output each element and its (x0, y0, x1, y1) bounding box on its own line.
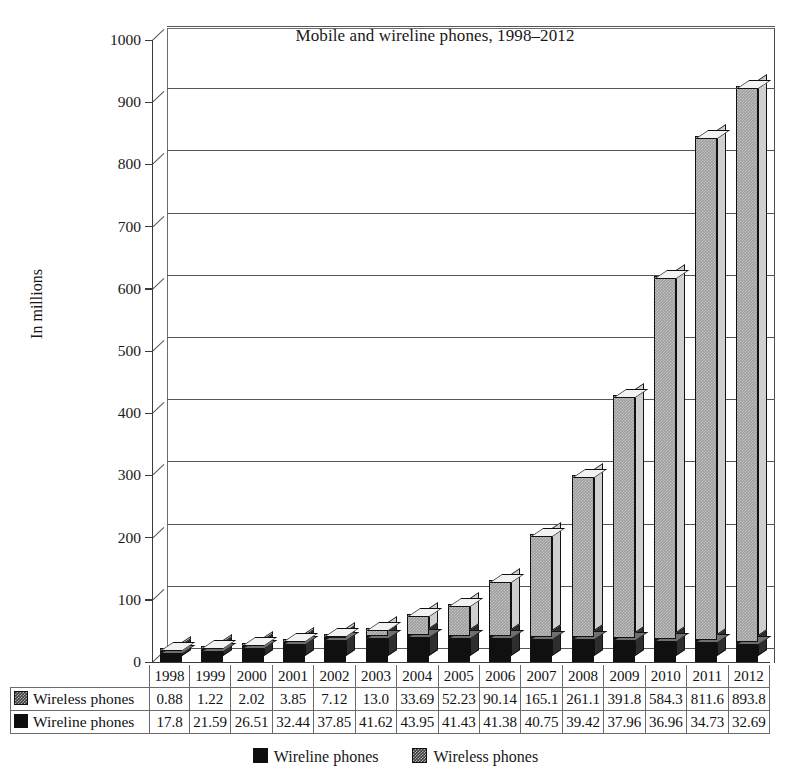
gray-hatched-square-icon (14, 691, 28, 705)
bar-column (201, 646, 232, 662)
table-cell-wireless-value: 2.02 (231, 688, 272, 711)
table-row-years: 1998199920002001200220032004200520062007… (11, 665, 770, 688)
bar-column (242, 643, 273, 662)
bar-segment-wireless (448, 604, 470, 636)
table-cell-wireline-value: 39.42 (562, 711, 603, 734)
table-cell-wireless-value: 3.85 (272, 688, 313, 711)
table-cell-wireline-value: 41.38 (479, 711, 520, 734)
bar-segment-wireline-front-face (407, 635, 429, 662)
bar-segment-wireless (160, 648, 182, 651)
chart-legend: Wireline phonesWireless phones (0, 748, 791, 766)
y-axis-tick-label: 800 (85, 156, 141, 172)
table-cell-year: 1999 (190, 665, 231, 688)
gridline-depth-connector (152, 216, 164, 228)
gridline-depth-connector (152, 91, 164, 103)
gridline-depth-connector (152, 340, 164, 352)
legend-item: Wireless phones (412, 748, 538, 766)
bar-segment-wireline-front-face (448, 636, 470, 662)
table-cell-wireless-value: 811.6 (687, 688, 728, 711)
y-axis-tick-label: 1000 (85, 32, 141, 48)
bar-segment-wireline (324, 638, 346, 662)
table-cell-wireline-value: 36.96 (645, 711, 686, 734)
table-cell-wireline-value: 41.43 (438, 711, 479, 734)
bar-segment-wireless (242, 643, 264, 646)
bar-segment-wireless (695, 136, 717, 641)
table-cell-wireline-value: 17.8 (149, 711, 189, 734)
bar-column (613, 395, 644, 662)
table-row-label-wireline: Wireline phones (11, 711, 150, 734)
table-cell-wireline-value: 32.69 (728, 711, 770, 734)
table-row-label-wireless: Wireless phones (11, 688, 150, 711)
bar-segment-wireline (448, 636, 470, 662)
table-cell-year: 2010 (645, 665, 686, 688)
table-row-wireline: Wireline phones 17.821.5926.5132.4437.85… (11, 711, 770, 734)
bar-segment-wireless-side-face (717, 124, 726, 635)
table-cell-wireless-value: 90.14 (479, 688, 520, 711)
legend-item-label: Wireless phones (433, 748, 538, 765)
bar-column (407, 614, 438, 662)
bar-segment-wireline (283, 642, 305, 662)
bar-segment-wireline-front-face (324, 638, 346, 662)
gridline (167, 150, 775, 151)
table-cell-year: 2001 (272, 665, 313, 688)
table-cell-wireless-value: 33.69 (397, 688, 438, 711)
bar-segment-wireline-front-face (695, 640, 717, 662)
bar-segment-wireless-side-face (552, 522, 561, 631)
bar-segment-wireline (654, 639, 676, 662)
table-cell-year: 2012 (728, 665, 770, 688)
bar-segment-wireless (736, 86, 758, 642)
legend-item-label: Wireline phones (274, 748, 379, 765)
table-cell-year: 2011 (687, 665, 728, 688)
table-cell-wireless-value: 391.8 (604, 688, 645, 711)
gridline (167, 88, 775, 89)
table-cell-wireless-value: 7.12 (314, 688, 355, 711)
bar-column (736, 86, 767, 662)
table-row-wireless: Wireless phones 0.881.222.023.857.1213.0… (11, 688, 770, 711)
table-cell-wireless-value: 13.0 (355, 688, 396, 711)
table-cell-wireline-value: 21.59 (190, 711, 231, 734)
bar-column (160, 648, 191, 662)
bar-column (530, 534, 561, 662)
dark-square-icon (253, 748, 268, 763)
bar-segment-wireless (530, 534, 552, 637)
bar-segment-wireline (695, 640, 717, 662)
bar-segment-wireline (366, 636, 388, 662)
gray-hatched-square-icon (412, 748, 427, 763)
bar-segment-wireless (283, 639, 305, 642)
y-axis-tick-label: 200 (85, 530, 141, 546)
bar-segment-wireless (654, 276, 676, 639)
table-cell-wireless-value: 0.88 (149, 688, 189, 711)
bar-segment-wireline (572, 637, 594, 662)
bar-column (448, 604, 479, 662)
table-cell-wireline-value: 37.96 (604, 711, 645, 734)
data-table: 1998199920002001200220032004200520062007… (10, 665, 770, 734)
table-cell-year: 2002 (314, 665, 355, 688)
table-cell-year: 2006 (479, 665, 520, 688)
table-cell-year: 2008 (562, 665, 603, 688)
bar-segment-wireline (407, 635, 429, 662)
bar-segment-wireline-front-face (654, 639, 676, 662)
table-cell-year: 2009 (604, 665, 645, 688)
table-corner-cell (11, 665, 150, 688)
bar-segment-wireless-front-face (448, 604, 470, 636)
table-cell-year: 2007 (521, 665, 562, 688)
y-axis-tick-label: 700 (85, 219, 141, 235)
table-cell-wireline-value: 43.95 (397, 711, 438, 734)
chart-title: Mobile and wireline phones, 1998–2012 (205, 26, 665, 46)
table-cell-year: 2003 (355, 665, 396, 688)
bar-column (324, 634, 355, 662)
chart-figure: 10009008007006005004003002001000 In mill… (0, 0, 791, 781)
bar-segment-wireless-front-face (572, 475, 594, 637)
legend-item: Wireline phones (253, 748, 379, 766)
bar-segment-wireless (324, 634, 346, 638)
y-axis-tick-label: 400 (85, 405, 141, 421)
table-cell-wireline-value: 41.62 (355, 711, 396, 734)
bar-column (572, 475, 603, 662)
bar-segment-wireless (407, 614, 429, 635)
bar-segment-wireless-front-face (489, 580, 511, 636)
table-cell-wireline-value: 26.51 (231, 711, 272, 734)
bar-column (695, 136, 726, 662)
gridline-depth-connector (152, 527, 164, 539)
table-cell-wireless-value: 584.3 (645, 688, 686, 711)
bar-segment-wireline (242, 646, 264, 662)
